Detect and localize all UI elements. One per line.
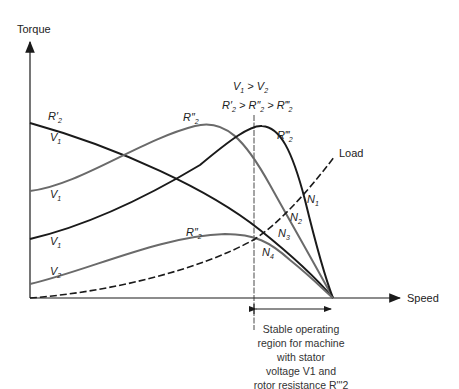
caption-line-3: with stator bbox=[236, 350, 366, 364]
stable-region-caption: Stable operating region for machine with… bbox=[236, 322, 366, 389]
caption-line-1: Stable operating bbox=[236, 322, 366, 336]
label-r2pp-top: R″2 bbox=[183, 111, 199, 125]
condition-voltage: V1 > V2 bbox=[233, 80, 268, 94]
label-n1: N1 bbox=[307, 193, 319, 207]
x-axis-label: Speed bbox=[407, 292, 439, 304]
label-n4: N4 bbox=[262, 246, 274, 260]
label-n2: N2 bbox=[290, 211, 302, 225]
label-n3: N3 bbox=[278, 227, 290, 241]
curve-r2pp-v2 bbox=[30, 234, 333, 298]
caption-line-2: region for machine bbox=[236, 336, 366, 350]
condition-resistance: R′2 > R″2 > R‴2 bbox=[222, 99, 293, 113]
y-axis-label: Torque bbox=[17, 23, 51, 35]
label-r2p: R′2 bbox=[48, 110, 62, 124]
label-v1-a: V1 bbox=[50, 131, 61, 145]
torque-speed-diagram: Torque Speed V1 > V2 R′2 > R″2 > R‴2 R′2… bbox=[0, 0, 459, 389]
label-v1-c: V1 bbox=[50, 235, 61, 249]
caption-line-4: voltage V1 and bbox=[236, 364, 366, 378]
label-r2pp-bottom: R″2 bbox=[186, 226, 202, 240]
label-r2ppp: R‴2 bbox=[277, 129, 293, 143]
label-v1-b: V1 bbox=[50, 188, 61, 202]
label-v2: V2 bbox=[50, 265, 61, 279]
caption-line-5: rotor resistance R'''2 bbox=[236, 378, 366, 389]
label-load: Load bbox=[339, 147, 363, 159]
